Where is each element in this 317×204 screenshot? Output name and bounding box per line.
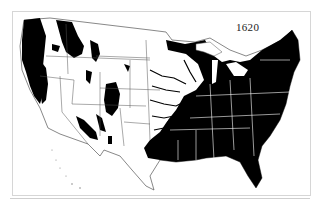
map-year-label: 1620 [236, 21, 259, 33]
small-forest-patch-3 [108, 136, 112, 144]
bottom-rule [10, 198, 310, 199]
baja-coast [51, 149, 80, 188]
us-forest-map [0, 0, 317, 204]
